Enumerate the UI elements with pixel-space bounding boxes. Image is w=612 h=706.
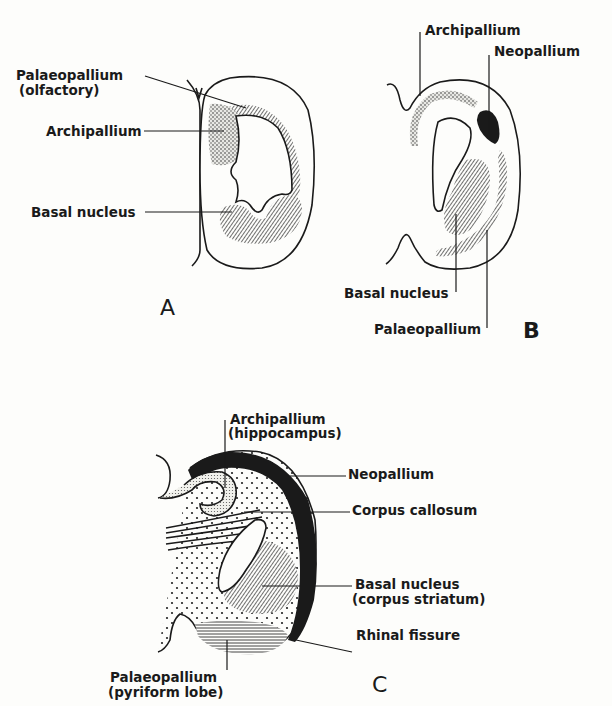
label-a-archipallium: Archipallium <box>46 124 142 139</box>
panel-a-drawing <box>187 77 314 269</box>
label-b-basal-nucleus: Basal nucleus <box>344 286 449 301</box>
label-c-archipallium-sub: (hippocampus) <box>228 426 342 441</box>
panel-letter-a: A <box>160 295 175 320</box>
label-c-palaeopallium: Palaeopallium <box>110 670 217 685</box>
panel-b-drawing <box>386 80 520 269</box>
label-c-corpus-callosum: Corpus callosum <box>352 503 477 518</box>
label-b-archipallium: Archipallium <box>425 23 521 38</box>
diagram-drawing <box>0 0 612 706</box>
label-c-basal-nucleus-sub: (corpus striatum) <box>352 592 485 607</box>
label-c-rhinal-fissure: Rhinal fissure <box>356 628 460 643</box>
panel-c-drawing <box>156 451 317 654</box>
label-b-neopallium: Neopallium <box>494 44 580 59</box>
label-c-palaeopallium-sub: (pyriform lobe) <box>108 685 223 700</box>
brain-evolution-figure: Palaeopallium (olfactory) Archipallium B… <box>0 0 612 706</box>
panel-letter-c: C <box>372 672 387 697</box>
label-a-basal-nucleus: Basal nucleus <box>31 205 136 220</box>
label-c-basal-nucleus: Basal nucleus <box>355 577 460 592</box>
label-b-palaeopallium: Palaeopallium <box>374 322 481 337</box>
label-c-neopallium: Neopallium <box>348 467 434 482</box>
label-a-palaeopallium: Palaeopallium <box>16 68 123 83</box>
panel-letter-b: B <box>523 318 540 343</box>
label-a-palaeopallium-sub: (olfactory) <box>19 83 99 98</box>
